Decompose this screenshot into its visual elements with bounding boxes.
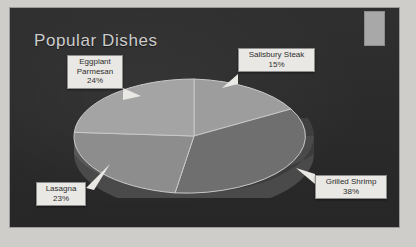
data-label-salisbury-percent: 15%	[243, 60, 310, 70]
data-label-eggplant-line1: Eggplant	[79, 57, 111, 66]
data-label-shrimp-line1: Grilled Shrimp	[326, 177, 377, 186]
data-label-grilled-shrimp[interactable]: Grilled Shrimp 38%	[315, 175, 387, 199]
data-label-salisbury-line1: Salisbury Steak	[249, 50, 305, 59]
data-label-eggplant-percent: 24%	[72, 76, 118, 86]
data-label-eggplant-parmesan[interactable]: Eggplant Parmesan 24%	[67, 55, 123, 89]
data-label-lasagna-percent: 23%	[41, 194, 81, 204]
data-label-lasagna-line1: Lasagna	[46, 184, 77, 193]
data-label-eggplant-line2: Parmesan	[77, 67, 113, 76]
chart-panel: Popular Dishes	[9, 7, 400, 228]
data-label-shrimp-percent: 38%	[320, 187, 382, 197]
data-label-lasagna[interactable]: Lasagna 23%	[36, 182, 86, 206]
screenshot-root: Popular Dishes	[0, 0, 416, 247]
data-label-salisbury-steak[interactable]: Salisbury Steak 15%	[238, 48, 315, 72]
